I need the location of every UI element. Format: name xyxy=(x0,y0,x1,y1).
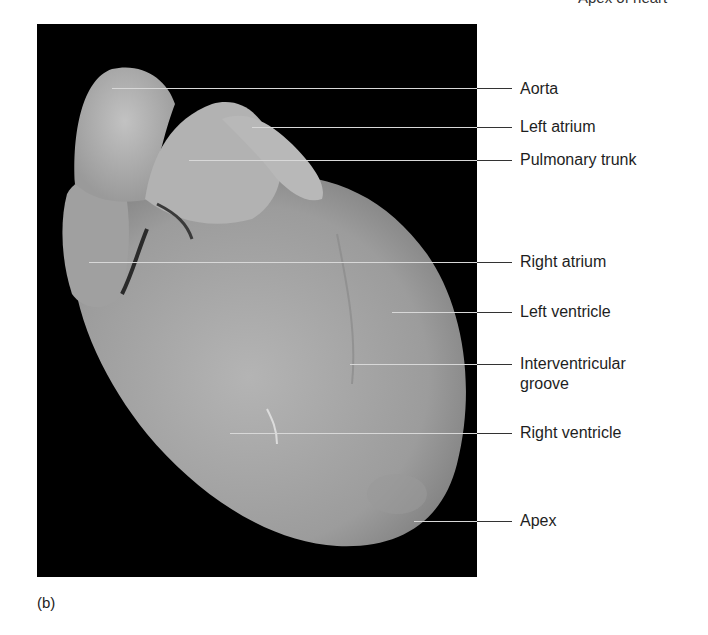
label-apex: Apex xyxy=(520,511,556,531)
heart-illustration xyxy=(37,24,477,577)
label-right-ventricle: Right ventricle xyxy=(520,423,621,443)
label-interventricular-groove: Interventricular groove xyxy=(520,354,626,394)
label-right-atrium: Right atrium xyxy=(520,252,606,272)
leader-line-pulmonary-trunk xyxy=(189,160,477,161)
leader-line-left-ventricle xyxy=(392,312,477,313)
label-interventricular-line2: groove xyxy=(520,374,626,394)
leader-line-left-ventricle-out xyxy=(477,312,512,313)
label-pulmonary-trunk: Pulmonary trunk xyxy=(520,150,637,170)
leader-line-pulmonary-trunk-out xyxy=(477,160,512,161)
leader-line-left-atrium-out xyxy=(477,127,512,128)
cropped-header-text: Apex of heart xyxy=(578,0,667,6)
leader-line-right-atrium xyxy=(89,262,477,263)
leader-line-right-ventricle xyxy=(230,433,477,434)
heart-photograph xyxy=(37,24,477,577)
label-left-ventricle: Left ventricle xyxy=(520,302,611,322)
leader-line-right-atrium-out xyxy=(477,262,512,263)
leader-line-apex xyxy=(414,521,477,522)
label-aorta: Aorta xyxy=(520,79,558,99)
leader-line-aorta-out xyxy=(477,88,512,89)
leader-line-interventricular-groove xyxy=(350,364,477,365)
leader-line-aorta xyxy=(112,88,477,89)
leader-line-left-atrium xyxy=(252,127,477,128)
leader-line-interventricular-groove-out xyxy=(477,364,512,365)
leader-line-right-ventricle-out xyxy=(477,433,512,434)
panel-label: (b) xyxy=(37,594,55,611)
label-left-atrium: Left atrium xyxy=(520,117,596,137)
label-interventricular-line1: Interventricular xyxy=(520,354,626,374)
leader-line-apex-out xyxy=(477,521,512,522)
